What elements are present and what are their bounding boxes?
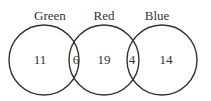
red-blue-count: 4 [129, 52, 136, 67]
red-only-count: 19 [98, 52, 111, 67]
red-label: Red [94, 8, 115, 23]
blue-only-count: 14 [160, 52, 174, 67]
blue-label: Blue [145, 8, 170, 23]
green-only-count: 11 [34, 52, 47, 67]
green-label: Green [34, 8, 66, 23]
venn-diagram: Green Red Blue 11 6 19 4 14 [0, 0, 211, 101]
green-red-count: 6 [73, 52, 80, 67]
